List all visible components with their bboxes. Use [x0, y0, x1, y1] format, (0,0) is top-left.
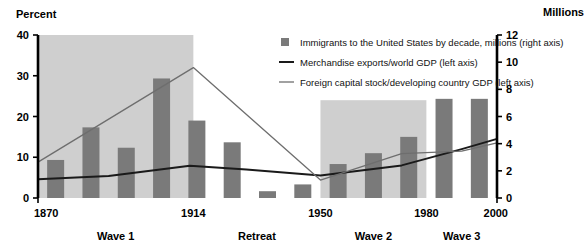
era-label-wave-3: Wave 3	[443, 230, 481, 242]
x-axis-tick-label-1870: 1870	[34, 207, 58, 219]
bar-1920s	[224, 142, 241, 198]
bar-1910s	[188, 121, 205, 198]
left-axis-title: Percent	[16, 8, 57, 20]
bar-1930s	[259, 191, 276, 198]
x-axis-tick-label-1980: 1980	[414, 207, 438, 219]
immigration-globalization-chart: 01020304002468101218701914195019802000Pe…	[0, 0, 588, 246]
bar-1960s	[365, 153, 382, 198]
x-axis-tick-label-2000: 2000	[484, 207, 508, 219]
x-axis-tick-label-1914: 1914	[181, 207, 206, 219]
legend-label-1: Merchandise exports/world GDP (left axis…	[300, 57, 478, 68]
right-axis-tick-label-4: 4	[506, 138, 513, 150]
bar-1880s	[82, 127, 99, 198]
right-axis-tick-label-2: 2	[506, 165, 512, 177]
right-axis-title: Millions	[543, 6, 584, 18]
legend-label-0: Immigrants to the United States by decad…	[300, 37, 563, 48]
chart-container: 01020304002468101218701914195019802000Pe…	[0, 0, 588, 246]
left-axis-tick-label-10: 10	[17, 151, 29, 163]
x-axis-tick-label-1950: 1950	[308, 207, 332, 219]
era-label-retreat: Retreat	[238, 230, 276, 242]
right-axis-tick-label-6: 6	[506, 111, 512, 123]
left-axis-tick-label-20: 20	[17, 111, 29, 123]
right-axis-tick-label-0: 0	[506, 192, 512, 204]
era-label-wave-2: Wave 2	[355, 230, 393, 242]
legend-marker-immigrants	[281, 38, 289, 46]
right-axis-tick-label-10: 10	[506, 56, 518, 68]
legend-label-2: Foreign capital stock/developing country…	[300, 77, 534, 88]
left-axis-tick-label-0: 0	[23, 192, 29, 204]
left-axis-tick-label-30: 30	[17, 70, 29, 82]
bar-1950s	[330, 164, 347, 198]
bar-1970s	[400, 137, 417, 198]
bar-1940s	[294, 184, 311, 198]
left-axis-tick-label-40: 40	[17, 29, 29, 41]
era-label-wave-1: Wave 1	[97, 230, 135, 242]
bar-1900s	[153, 78, 170, 198]
bar-1980s	[436, 99, 453, 198]
